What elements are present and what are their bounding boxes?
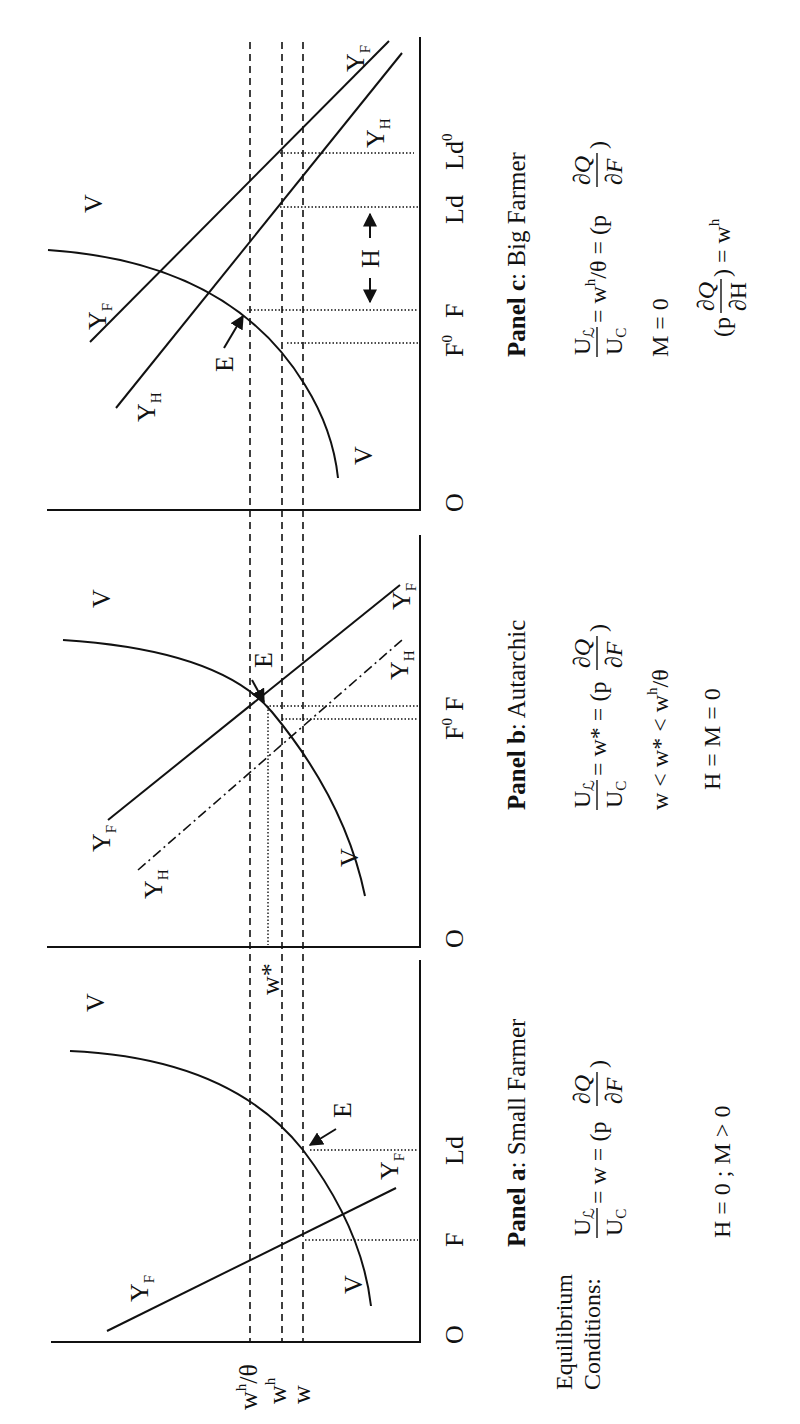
panel-a-v-label-bottom: V <box>339 1275 368 1294</box>
svg-text:UC: UC <box>601 328 629 355</box>
panel-b: E V V YF YF YH YH w* O F0 F Panel b: Aut… <box>47 535 725 995</box>
panel-c-condition-1: Uℒ UC = wh/θ = (p ∂Q ∂F ) <box>569 141 629 357</box>
panel-c-yh-line <box>116 53 402 408</box>
svg-text:) = wh: ) = wh <box>706 218 735 277</box>
panel-c-h-label: H <box>356 249 385 268</box>
equilibrium-heading-line1: Equilibrium <box>551 1274 577 1390</box>
svg-text:Uℒ: Uℒ <box>569 1208 597 1236</box>
wstar-label: w* <box>256 963 285 995</box>
svg-text:w: w <box>287 1385 316 1404</box>
panel-c-e-label: E <box>210 356 239 372</box>
wage-label-wh-theta: wh/θ <box>233 1364 263 1410</box>
panel-c-v-label-top: V <box>79 194 108 213</box>
panel-c-v-label-bottom: V <box>349 446 378 465</box>
panel-a-origin-label: O <box>440 1325 469 1344</box>
panel-b-condition-1: Uℒ UC = w* = (p ∂Q ∂F ) <box>569 624 629 810</box>
panel-a-x-label-ld: Ld <box>440 1136 469 1165</box>
panel-b-title: Panel b: Autarchic <box>503 620 530 810</box>
panel-c-x-label-ld0: Ld0 <box>439 134 469 170</box>
svg-text:∂Q: ∂Q <box>569 156 595 185</box>
panel-c-x-label-f0: F0 <box>439 335 469 357</box>
svg-text:∂F: ∂F <box>601 641 627 668</box>
panel-b-yh-line <box>138 640 402 870</box>
panel-b-yh-label-left: YH <box>139 869 171 899</box>
panel-c-condition-2: M = 0 <box>647 298 673 357</box>
svg-text:∂H: ∂H <box>725 282 751 311</box>
panel-b-x-label-f0: F0 <box>439 718 469 740</box>
svg-text:): ) <box>585 624 611 632</box>
svg-text:∂F: ∂F <box>601 158 627 185</box>
panel-c-title: Panel c: Big Farmer <box>503 151 530 357</box>
panel-a-yf-label-left: YF <box>125 1275 157 1302</box>
panel-b-x-label-f: F <box>440 697 469 711</box>
panel-b-v-curve <box>63 640 365 896</box>
svg-text:= wh/θ = (p: = wh/θ = (p <box>582 215 611 323</box>
panel-a-title: Panel a: Small Farmer <box>503 1018 530 1247</box>
panel-c-yh-label-left: YH <box>132 392 164 422</box>
svg-text:(p: (p <box>709 317 735 337</box>
svg-text:Uℒ: Uℒ <box>569 780 597 808</box>
svg-text:= w = (p: = w = (p <box>585 1122 611 1204</box>
panel-c-v-curve <box>48 250 338 478</box>
panel-a-x-label-f: F <box>440 1233 469 1247</box>
panel-c-axes <box>47 37 420 510</box>
equilibrium-heading-line2: Conditions: <box>579 1278 605 1390</box>
panel-c-e-arrow <box>224 316 243 348</box>
svg-text:∂Q: ∂Q <box>569 639 595 668</box>
panel-b-yf-label-right: YF <box>387 583 419 610</box>
svg-text:wh/θ: wh/θ <box>233 1364 263 1410</box>
panel-a-v-curve <box>70 1051 371 1306</box>
svg-text:∂F: ∂F <box>601 1077 627 1104</box>
wage-label-w: w <box>287 1385 316 1404</box>
panel-a-yf-label-right: YF <box>375 1153 407 1180</box>
svg-text:∂Q: ∂Q <box>693 282 719 311</box>
panel-c-yf-label-left: YF <box>83 303 115 330</box>
panel-a-yf-line <box>107 1188 396 1331</box>
panel-b-yf-label-left: YF <box>87 825 119 852</box>
panel-b-condition-2: w < w* < wh/θ <box>644 669 673 810</box>
svg-text:UC: UC <box>601 781 629 808</box>
svg-text:∂Q: ∂Q <box>569 1075 595 1104</box>
panel-c-x-label-f: F <box>440 304 469 318</box>
panel-a: E V V YF YF O F Ld Panel a: Small Farmer… <box>51 960 735 1390</box>
svg-text:): ) <box>585 1060 611 1068</box>
panel-c-yh-label-right: YH <box>361 118 393 148</box>
panel-b-v-label-top: V <box>87 589 116 608</box>
panel-b-condition-3: H = M = 0 <box>699 688 725 790</box>
panel-b-yh-label-right: YH <box>385 650 417 680</box>
panel-c-x-label-ld: Ld <box>440 195 469 224</box>
svg-text:= w* = (p: = w* = (p <box>585 682 611 776</box>
panel-a-e-arrow <box>310 1129 336 1145</box>
panel-a-condition-2: H = 0 ; M > 0 <box>709 1106 735 1238</box>
panel-c: E H V V YF YF YH YH O F0 F Ld Ld0 Panel … <box>47 37 751 512</box>
panel-b-v-label-bottom: V <box>335 848 364 867</box>
farmer-equilibrium-diagram: wh/θ wh w E H V V YF YF YH YH O F0 <box>0 0 800 1424</box>
panel-a-e-label: E <box>328 1102 357 1118</box>
panel-b-yf-line <box>108 585 400 820</box>
panel-c-yf-label-right: YF <box>341 45 373 72</box>
panel-c-condition-3: (p ∂Q ∂H ) = wh <box>693 218 751 337</box>
panel-c-origin-label: O <box>440 493 469 512</box>
svg-text:): ) <box>585 141 611 149</box>
panel-a-v-label-top: V <box>81 993 110 1012</box>
svg-text:UC: UC <box>601 1209 629 1236</box>
panel-b-e-label: E <box>249 652 278 668</box>
svg-text:Uℒ: Uℒ <box>569 327 597 355</box>
panel-b-origin-label: O <box>440 929 469 948</box>
panel-c-yf-line <box>90 41 389 342</box>
panel-a-condition-1: Uℒ UC = w = (p ∂Q ∂F ) <box>569 1060 629 1238</box>
